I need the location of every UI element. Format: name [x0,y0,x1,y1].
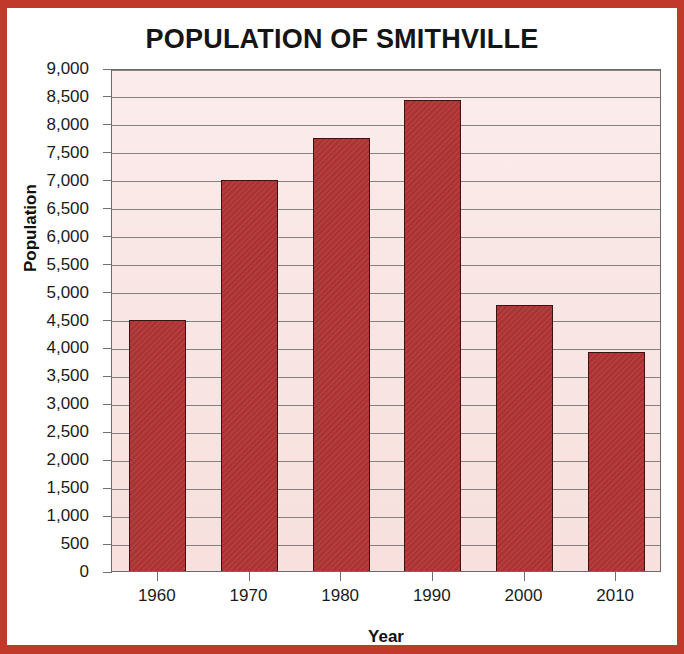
y-axis-tick-label: 6,000 [9,227,89,247]
y-axis-tick-mark [103,180,112,181]
y-axis-tick-mark [103,348,112,349]
gridline [112,237,660,238]
gridline [112,153,660,154]
x-axis-title: Year [111,627,661,647]
y-axis-tick-label: 2,000 [9,450,89,470]
y-axis-tick-mark [103,320,112,321]
y-axis-tick-label: 7,500 [9,143,89,163]
y-axis-tick-label: 4,000 [9,338,89,358]
y-axis-tick-mark [103,236,112,237]
bar-1980 [313,138,370,571]
y-axis-tick-mark [103,264,112,265]
y-axis-tick-mark [103,292,112,293]
y-axis-tick-label: 5,000 [9,283,89,303]
gridline [112,265,660,266]
y-axis-tick-mark [103,572,112,573]
y-axis-tick-label: 7,000 [9,171,89,191]
bar-1990 [404,100,461,571]
y-axis-tick-mark [103,376,112,377]
y-axis-tick-label: 6,500 [9,199,89,219]
gridline [112,349,660,350]
gridline [112,97,660,98]
y-axis-tick-mark [103,208,112,209]
y-axis-tick-label: 4,500 [9,311,89,331]
x-axis-tick-label: 2010 [560,586,670,606]
y-axis-tick-label: 9,000 [9,59,89,79]
gridline [112,405,660,406]
y-axis-tick-mark [103,152,112,153]
x-axis-tick-mark [615,572,616,581]
x-axis-tick-mark [157,572,158,581]
chart-page: POPULATION OF SMITHVILLE Population 9,00… [0,0,684,654]
y-axis-tick-mark [103,69,112,70]
gridline [112,377,660,378]
y-axis-tick-label: 500 [9,534,89,554]
y-axis-tick-label: 8,000 [9,115,89,135]
x-axis-tick-mark [524,572,525,581]
y-axis-tick-mark [103,432,112,433]
gridline [112,293,660,294]
gridline [112,125,660,126]
y-axis-tick-label: 8,500 [9,87,89,107]
plot-area [111,69,661,572]
gridline [112,433,660,434]
y-axis-tick-label: 0 [9,562,89,582]
bar-1970 [221,180,278,571]
bar-1960 [129,320,186,572]
y-axis-tick-label: 3,000 [9,394,89,414]
y-axis-tick-label: 2,500 [9,422,89,442]
y-axis-tick-label: 3,500 [9,366,89,386]
chart-title: POPULATION OF SMITHVILLE [7,24,677,55]
gridline [112,70,660,71]
gridline [112,181,660,182]
y-axis-tick-mark [103,488,112,489]
y-axis-tick-mark [103,460,112,461]
y-axis-tick-mark [103,96,112,97]
y-axis-tick-label: 1,500 [9,478,89,498]
y-axis-tick-mark [103,544,112,545]
y-axis-tick-label: 5,500 [9,255,89,275]
gridline [112,517,660,518]
x-axis-tick-mark [432,572,433,581]
bar-2000 [496,305,553,571]
x-axis-tick-mark [340,572,341,581]
gridline [112,209,660,210]
bar-2010 [588,352,645,571]
x-axis-tick-mark [249,572,250,581]
y-axis-tick-label: 1,000 [9,506,89,526]
y-axis-tick-mark [103,404,112,405]
y-axis-tick-mark [103,516,112,517]
y-axis-tick-mark [103,124,112,125]
gridline [112,489,660,490]
gridline [112,545,660,546]
gridline [112,321,660,322]
gridline [112,461,660,462]
